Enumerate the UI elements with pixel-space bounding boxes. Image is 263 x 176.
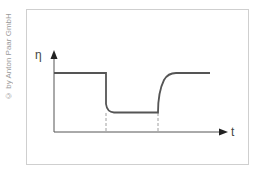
viscosity-curve — [54, 73, 210, 113]
step-test-diagram — [0, 0, 263, 176]
x-axis-label: t — [231, 126, 234, 138]
y-axis-arrow-icon — [51, 50, 58, 59]
y-axis-label: η — [35, 49, 42, 61]
x-axis-arrow-icon — [219, 129, 228, 136]
